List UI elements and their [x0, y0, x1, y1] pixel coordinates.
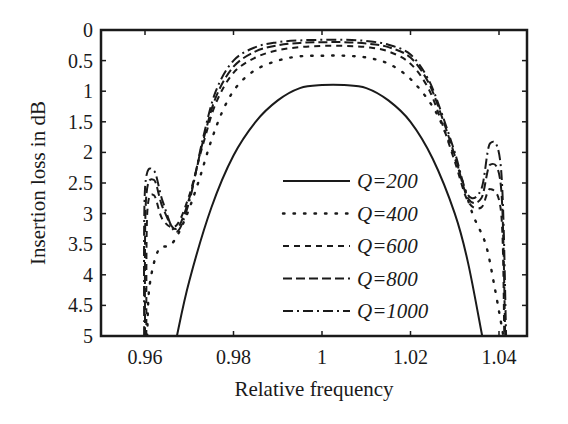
insertion-loss-chart: 0.960.9811.021.04 00.511.522.533.544.55 …: [0, 0, 568, 424]
x-tick-label: 1.04: [482, 346, 517, 368]
legend: Q=200Q=400Q=600Q=800Q=1000: [283, 169, 429, 323]
x-tick-label: 0.98: [216, 346, 251, 368]
series-line-q-400: [147, 56, 503, 336]
legend-label: Q=600: [357, 234, 418, 258]
y-axis-title: Insertion loss in dB: [26, 101, 50, 265]
y-tick-label: 1: [83, 80, 93, 102]
legend-label: Q=800: [357, 267, 418, 291]
series-line-q-800: [145, 42, 505, 336]
y-tick-label: 5: [83, 325, 93, 347]
y-tick-label: 4.5: [68, 294, 93, 316]
y-tick-label: 3: [83, 203, 93, 225]
y-tick-label: 2: [83, 141, 93, 163]
x-axis: 0.960.9811.021.04: [128, 30, 517, 368]
series-line-q-600: [146, 46, 504, 336]
y-tick-label: 0: [83, 19, 93, 41]
y-tick-label: 3.5: [68, 233, 93, 255]
y-tick-label: 0.5: [68, 50, 93, 72]
legend-label: Q=1000: [357, 299, 429, 323]
x-tick-label: 0.96: [128, 346, 163, 368]
y-tick-label: 2.5: [68, 172, 93, 194]
series-line-q-200: [177, 85, 482, 336]
y-tick-label: 4: [83, 264, 93, 286]
x-axis-title: Relative frequency: [234, 377, 394, 401]
legend-label: Q=400: [357, 202, 418, 226]
y-axis: 00.511.522.533.544.55: [68, 19, 527, 347]
x-tick-label: 1.02: [393, 346, 428, 368]
x-tick-label: 1: [317, 346, 327, 368]
plot-curves: [144, 40, 506, 336]
legend-label: Q=200: [357, 169, 418, 193]
y-tick-label: 1.5: [68, 111, 93, 133]
